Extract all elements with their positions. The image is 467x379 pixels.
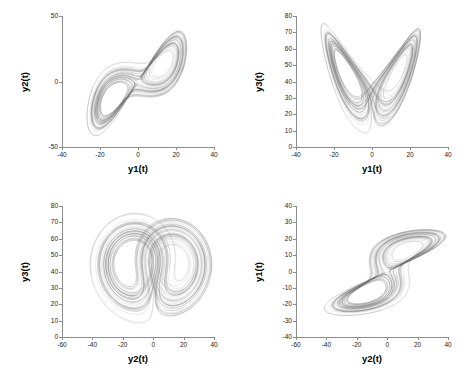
trajectory-plot xyxy=(0,0,467,379)
panel-y2-y1: -60-40-2002040-40-30-20-10010203040y2(t)… xyxy=(0,0,467,379)
lorenz-attractor-figure: -40-2002040-50050y1(t)y2(t)-40-200204001… xyxy=(0,0,467,379)
trajectory-segment xyxy=(340,233,439,308)
trajectory-segment xyxy=(338,233,439,309)
trajectory-segment xyxy=(340,233,439,308)
